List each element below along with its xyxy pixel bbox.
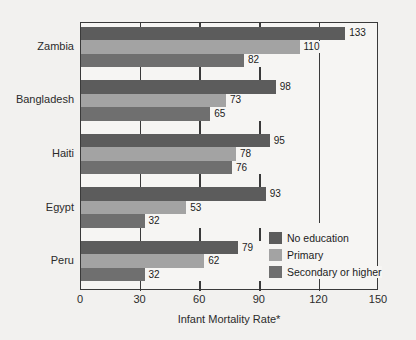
gridline-segment-60 [199, 121, 201, 134]
y-axis-labels: ZambiaBangladeshHaitiEgyptPeru [0, 22, 74, 290]
gridline-segment-90 [259, 281, 261, 291]
bar-value-label: 133 [347, 27, 368, 39]
x-axis-title: Infant Mortality Rate* [80, 313, 378, 325]
bar-value-label: 78 [238, 148, 253, 160]
x-axis-tick-labels: 0306090120150 [80, 293, 378, 309]
plot-area: 13311082987365957876935332796232 No educ… [80, 22, 378, 290]
bar-haiti-primary[interactable] [81, 147, 236, 161]
gridline-segment-60 [199, 228, 201, 241]
bar-value-label: 65 [212, 108, 227, 120]
y-axis-label-haiti: Haiti [52, 147, 74, 159]
bar-row: 53 [81, 201, 377, 215]
bar-row: 98 [81, 80, 377, 94]
bar-value-label: 95 [272, 135, 287, 147]
chart-figure: ZambiaBangladeshHaitiEgyptPeru 133110829… [0, 0, 416, 340]
legend-item[interactable]: No education [269, 229, 375, 246]
gridline-segment-30 [140, 67, 142, 80]
gridline-segment-90 [259, 67, 261, 80]
bar-row: 93 [81, 187, 377, 201]
bar-row: 110 [81, 40, 377, 54]
bar-peru-no-education[interactable] [81, 241, 238, 255]
bar-bangladesh-no-education[interactable] [81, 80, 276, 94]
bar-egypt-primary[interactable] [81, 201, 186, 215]
y-axis-label-peru: Peru [51, 254, 74, 266]
legend-swatch [269, 249, 282, 261]
x-tick-120: 120 [309, 293, 327, 305]
gridline-segment-60 [199, 281, 201, 291]
x-tick-30: 30 [133, 293, 145, 305]
legend-item[interactable]: Secondary or higher [269, 263, 375, 280]
gridline-segment-30 [140, 121, 142, 134]
bar-haiti-no-education[interactable] [81, 134, 270, 148]
bar-value-label: 53 [188, 202, 203, 214]
bar-value-label: 32 [147, 215, 162, 227]
gridline-segment-30 [140, 281, 142, 291]
gridline-segment-30 [140, 228, 142, 241]
bar-value-label: 76 [234, 162, 249, 174]
bar-row: 32 [81, 214, 377, 228]
legend-label: Secondary or higher [287, 266, 382, 278]
bar-value-label: 82 [246, 54, 261, 66]
bar-value-label: 110 [302, 41, 322, 53]
bar-egypt-no-education[interactable] [81, 187, 266, 201]
bar-bangladesh-secondary-or-higher[interactable] [81, 107, 210, 121]
bar-row: 133 [81, 27, 377, 41]
gridline-segment-30 [140, 174, 142, 187]
legend-swatch [269, 232, 282, 244]
gridline-segment-60 [199, 67, 201, 80]
bar-haiti-secondary-or-higher[interactable] [81, 161, 232, 175]
bar-value-label: 62 [206, 255, 221, 267]
legend-label: Primary [287, 249, 323, 261]
bar-row: 65 [81, 107, 377, 121]
bar-value-label: 79 [240, 242, 255, 254]
y-axis-label-bangladesh: Bangladesh [16, 93, 74, 105]
bar-value-label: 98 [278, 81, 293, 93]
y-axis-label-egypt: Egypt [46, 201, 74, 213]
bar-zambia-secondary-or-higher[interactable] [81, 54, 244, 68]
bar-peru-secondary-or-higher[interactable] [81, 268, 145, 282]
bar-row: 76 [81, 161, 377, 175]
bar-row: 95 [81, 134, 377, 148]
legend-label: No education [287, 232, 349, 244]
bar-egypt-secondary-or-higher[interactable] [81, 214, 145, 228]
bar-row: 73 [81, 94, 377, 108]
legend-swatch [269, 266, 282, 278]
bar-zambia-primary[interactable] [81, 40, 300, 54]
bar-bangladesh-primary[interactable] [81, 94, 226, 108]
bar-value-label: 73 [228, 94, 243, 106]
x-tick-90: 90 [253, 293, 265, 305]
chart-legend: No educationPrimarySecondary or higher [269, 229, 375, 280]
gridline-segment-90 [259, 121, 261, 134]
gridline-segment-90 [259, 228, 261, 241]
bar-value-label: 93 [268, 188, 283, 200]
gridline-segment-60 [199, 174, 201, 187]
y-axis-label-zambia: Zambia [37, 40, 74, 52]
bar-zambia-no-education[interactable] [81, 27, 345, 41]
gridline-segment-90 [259, 174, 261, 187]
x-tick-60: 60 [193, 293, 205, 305]
bar-value-label: 32 [147, 269, 162, 281]
bar-row: 78 [81, 147, 377, 161]
bar-peru-primary[interactable] [81, 254, 204, 268]
x-tick-0: 0 [77, 293, 83, 305]
x-tick-150: 150 [369, 293, 387, 305]
legend-item[interactable]: Primary [269, 246, 375, 263]
bar-row: 82 [81, 54, 377, 68]
